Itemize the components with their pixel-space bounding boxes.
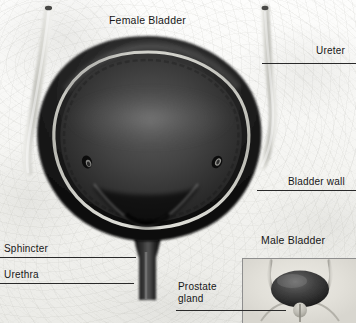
illustration-canvas: Female Bladder Ureter Bladder wall Sphin… (0, 0, 356, 323)
label-prostate-line1: Prostate (178, 281, 217, 293)
leader-urethra (0, 283, 134, 284)
leader-sphincter (0, 257, 136, 258)
leader-bladder-wall (257, 190, 356, 191)
page-title: Female Bladder (109, 14, 186, 26)
inset-bladder-highlight (277, 274, 307, 288)
label-ureter: Ureter (316, 45, 345, 57)
lumen-highlight (66, 88, 234, 148)
male-bladder-inset (242, 258, 356, 323)
label-urethra: Urethra (4, 269, 39, 281)
inset-title: Male Bladder (261, 234, 325, 246)
leader-prostate (176, 310, 286, 311)
label-bladder-wall: Bladder wall (288, 176, 345, 188)
male-bladder-figure (243, 259, 356, 323)
label-sphincter: Sphincter (4, 243, 48, 255)
label-prostate-line2: gland (178, 293, 203, 305)
leader-ureter (262, 63, 356, 64)
